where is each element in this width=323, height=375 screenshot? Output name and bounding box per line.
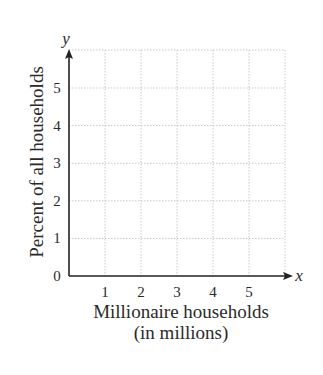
y-tick-label: 4 xyxy=(53,118,61,134)
x-tick-label: 5 xyxy=(245,284,253,300)
x-tick-label: 4 xyxy=(209,284,217,300)
x-tick-label: 3 xyxy=(173,284,181,300)
y-axis-variable: y xyxy=(60,29,70,48)
y-tick-label: 2 xyxy=(53,193,61,209)
x-axis-title-line-2: (in millions) xyxy=(134,322,228,344)
x-tick-label: 2 xyxy=(137,284,145,300)
y-axis-title: Percent of all households xyxy=(26,66,47,258)
y-tick-label: 0 xyxy=(53,268,61,284)
axes xyxy=(65,49,293,280)
x-axis-variable: x xyxy=(294,266,303,285)
grid xyxy=(69,50,285,276)
x-tick-label: 1 xyxy=(101,284,109,300)
chart: 012345 12345 y x Percent of all househol… xyxy=(0,0,323,375)
y-tick-label: 1 xyxy=(53,230,61,246)
y-tick-label: 3 xyxy=(53,155,61,171)
y-tick-labels: 012345 xyxy=(53,80,61,284)
y-tick-label: 5 xyxy=(53,80,61,96)
x-tick-labels: 12345 xyxy=(101,284,253,300)
x-axis-title-line-1: Millionaire households xyxy=(93,301,269,322)
